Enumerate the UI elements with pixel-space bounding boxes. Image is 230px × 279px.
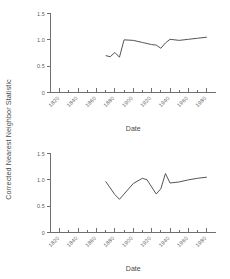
x-tick-label: 1900 <box>121 95 134 108</box>
x-tick-label: 1940 <box>157 95 170 108</box>
chart-panel-bottom: 00.51.01.5182018401860188019001920194019… <box>0 140 230 279</box>
x-tick-label: 1860 <box>84 235 97 248</box>
y-tick-label: 1.5 <box>37 11 45 17</box>
x-axis-title: Date <box>126 265 141 272</box>
y-tick-label: 0 <box>42 90 45 96</box>
y-tick-label: 1.0 <box>37 177 45 183</box>
x-tick-label: 1880 <box>102 95 115 108</box>
y-tick-label: 1.5 <box>37 151 45 157</box>
x-tick-label: 1960 <box>176 95 189 108</box>
data-series-line <box>106 174 207 200</box>
x-tick-label: 1820 <box>47 95 60 108</box>
x-tick-label: 1880 <box>102 235 115 248</box>
x-tick-label: 1840 <box>65 95 78 108</box>
y-tick-label: 0 <box>42 230 45 236</box>
x-tick-label: 1980 <box>194 235 207 248</box>
line-chart-top: 00.51.01.5182018401860188019001920194019… <box>0 0 230 139</box>
line-chart-bottom: 00.51.01.5182018401860188019001920194019… <box>0 140 230 279</box>
x-tick-label: 1900 <box>121 235 134 248</box>
y-tick-label: 0.5 <box>37 63 45 69</box>
x-tick-label: 1840 <box>65 235 78 248</box>
y-tick-label: 1.0 <box>37 37 45 43</box>
x-tick-label: 1940 <box>157 235 170 248</box>
x-tick-label: 1960 <box>176 235 189 248</box>
x-tick-label: 1980 <box>194 95 207 108</box>
x-tick-label: 1820 <box>47 235 60 248</box>
x-tick-label: 1920 <box>139 95 152 108</box>
y-tick-label: 0.5 <box>37 203 45 209</box>
data-series-line <box>106 37 207 57</box>
x-tick-label: 1860 <box>84 95 97 108</box>
chart-panel-top: 00.51.01.5182018401860188019001920194019… <box>0 0 230 139</box>
x-tick-label: 1920 <box>139 235 152 248</box>
x-axis-title: Date <box>126 125 141 132</box>
figure-container: Corrected Nearest Neighbor Statistic 00.… <box>0 0 230 279</box>
